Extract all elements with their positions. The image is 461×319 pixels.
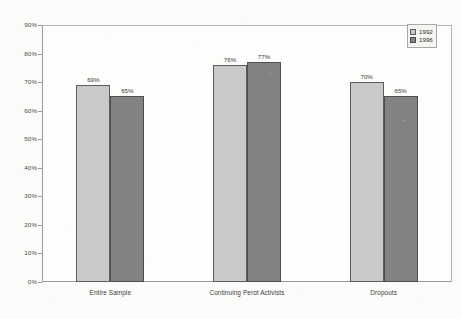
- legend-label-1996: 1996: [419, 36, 433, 44]
- x-axis-category-label: Continuing Perot Activists: [179, 288, 316, 298]
- y-axis-tick-label: 0%: [0, 277, 42, 287]
- y-axis-tick-label: 80%: [0, 49, 42, 59]
- x-axis-category-label: Dropouts: [315, 288, 452, 298]
- bar-1992-entire-sample: 69%: [76, 85, 110, 282]
- y-axis-tick-label: 60%: [0, 106, 42, 116]
- bar-value-label: 77%: [258, 53, 270, 61]
- legend-swatch-1996-icon: [410, 37, 416, 43]
- scan-speckle: [420, 300, 421, 301]
- scan-speckle: [108, 38, 109, 39]
- legend-label-1992: 1992: [419, 28, 433, 36]
- scan-speckle: [404, 120, 405, 121]
- bar-value-label: 65%: [121, 87, 133, 95]
- legend-swatch-1992-icon: [410, 29, 416, 35]
- y-axis-tick-label: 40%: [0, 163, 42, 173]
- scan-speckle: [150, 262, 151, 263]
- x-axis-category-label: Entire Sample: [42, 288, 179, 298]
- bar-group: 70%65%: [350, 25, 418, 282]
- bar-1992-dropouts: 70%: [350, 82, 384, 282]
- bars-layer: 69%65%76%77%70%65%: [42, 25, 452, 282]
- legend-item-1992: 1992: [410, 28, 433, 36]
- scan-speckle: [66, 231, 67, 232]
- bar-value-label: 65%: [394, 87, 406, 95]
- bar-1996-dropouts: 65%: [384, 96, 418, 282]
- scan-speckle: [193, 41, 194, 42]
- bar-group: 76%77%: [213, 25, 281, 282]
- scan-speckle: [240, 18, 241, 19]
- x-axis-labels: Entire SampleContinuing Perot ActivistsD…: [42, 288, 452, 302]
- bar-1996-entire-sample: 65%: [110, 96, 144, 282]
- y-axis-tick-mark: [38, 282, 42, 283]
- scan-speckle: [52, 300, 53, 301]
- y-axis-tick-label: 20%: [0, 220, 42, 230]
- y-axis-tick-label: 10%: [0, 248, 42, 258]
- y-axis-tick-label: 70%: [0, 77, 42, 87]
- y-axis-tick-label: 30%: [0, 191, 42, 201]
- scan-speckle: [270, 73, 271, 74]
- bar-value-label: 70%: [360, 73, 372, 81]
- legend-item-1996: 1996: [410, 36, 433, 44]
- bar-chart: 0%10%20%30%40%50%60%70%80%90% 69%65%76%7…: [0, 0, 461, 319]
- bar-1996-continuing-perot-activists: 77%: [247, 62, 281, 282]
- legend: 1992 1996: [407, 24, 437, 48]
- bar-value-label: 69%: [87, 76, 99, 84]
- y-axis-tick-label: 90%: [0, 20, 42, 30]
- bar-value-label: 76%: [224, 56, 236, 64]
- y-axis-tick-label: 50%: [0, 134, 42, 144]
- scan-speckle: [300, 289, 301, 290]
- bar-1992-continuing-perot-activists: 76%: [213, 65, 247, 282]
- scan-speckle: [231, 155, 232, 156]
- bar-group: 69%65%: [76, 25, 144, 282]
- scan-speckle: [352, 205, 353, 206]
